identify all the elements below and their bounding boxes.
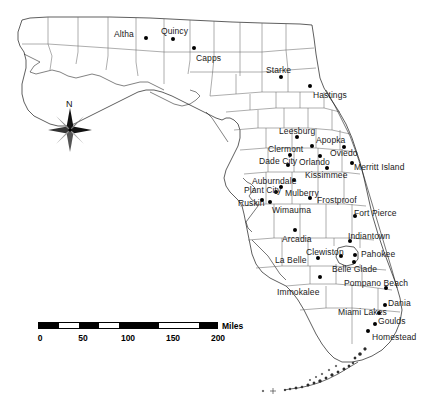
city-label-belle-glade: Belle Glade bbox=[332, 265, 377, 274]
city-label-leesburg: Leesburg bbox=[279, 127, 315, 136]
city-label-oviedo: Oviedo bbox=[330, 149, 358, 158]
scale-segment-5 bbox=[159, 323, 199, 328]
city-label-arcadia: Arcadia bbox=[282, 235, 312, 244]
city-label-starke: Starke bbox=[266, 66, 291, 75]
scale-bar-group: Miles 0 50 100 150 200 bbox=[38, 322, 268, 352]
city-label-homestead: Homestead bbox=[372, 333, 416, 342]
city-label-ruskin: Ruskin bbox=[238, 199, 265, 208]
city-label-capps: Capps bbox=[196, 54, 221, 63]
florida-city-map: N Altha Quincy bbox=[0, 0, 422, 402]
keys-chain bbox=[284, 362, 358, 390]
city-label-hastings: Hastings bbox=[313, 91, 347, 100]
city-label-frostproof: Frostproof bbox=[317, 196, 357, 205]
city-label-apopka: Apopka bbox=[316, 136, 345, 145]
scale-tick-100: 100 bbox=[121, 333, 135, 343]
scale-tick-50: 50 bbox=[78, 333, 87, 343]
city-label-orlando: Orlando bbox=[299, 158, 330, 167]
city-label-dade-city: Dade City bbox=[259, 157, 297, 166]
scale-tick-0: 0 bbox=[38, 333, 43, 343]
scale-segment-3 bbox=[99, 323, 119, 328]
scale-tick-150: 150 bbox=[166, 333, 180, 343]
city-label-mulberry: Mulberry bbox=[285, 189, 319, 198]
scale-segment-6 bbox=[199, 323, 217, 328]
city-label-dania: Dania bbox=[388, 299, 411, 308]
city-label-wimauma: Wimauma bbox=[272, 206, 311, 215]
city-label-goulds: Goulds bbox=[378, 317, 406, 326]
scale-segment-2 bbox=[79, 323, 99, 328]
city-label-kissimmee: Kissimmee bbox=[305, 171, 347, 180]
city-label-merritt-island: Merritt Island bbox=[354, 163, 405, 172]
scale-segment-0 bbox=[39, 323, 59, 328]
city-label-altha: Altha bbox=[114, 30, 134, 39]
scale-units-label: Miles bbox=[222, 321, 243, 331]
city-label-clermont: Clermont bbox=[268, 145, 303, 154]
compass-north-label: N bbox=[66, 99, 73, 109]
city-label-quincy: Quincy bbox=[161, 27, 188, 36]
scale-segment-4 bbox=[119, 323, 159, 328]
scale-bar bbox=[38, 322, 218, 329]
city-label-fort-pierce: Fort Pierce bbox=[354, 209, 397, 218]
city-label-plant-city: Plant City bbox=[244, 186, 281, 195]
city-label-clewiston: Clewiston bbox=[306, 248, 344, 257]
city-label-immokalee: Immokalee bbox=[277, 288, 319, 297]
city-label-la-belle: La Belle bbox=[275, 256, 307, 265]
city-label-pompano-beach: Pompano Beach bbox=[344, 279, 408, 288]
scale-tick-200: 200 bbox=[211, 333, 225, 343]
city-label-pahokee: Pahokee bbox=[361, 250, 395, 259]
city-label-indiantown: Indiantown bbox=[348, 232, 390, 241]
scale-segment-1 bbox=[59, 323, 79, 328]
